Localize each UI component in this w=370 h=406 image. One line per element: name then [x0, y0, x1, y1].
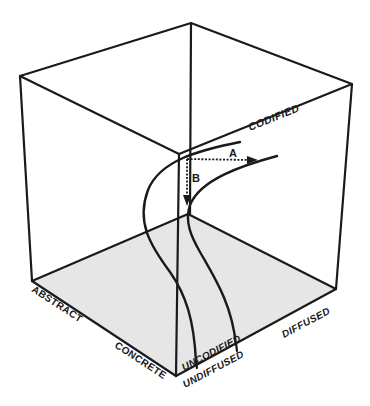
- arrow-a-label: A: [229, 147, 237, 159]
- edge-left-vertical: [20, 76, 32, 281]
- edge-top-face: [20, 23, 352, 154]
- label-codified: CODIFIED: [246, 101, 301, 132]
- cube-diagram-svg: A B CODIFIED ABSTRACT CONCRETE UNCODIFIE…: [0, 0, 370, 406]
- arrow-b-label: B: [192, 172, 200, 184]
- edge-back-vertical: [190, 23, 191, 214]
- arrow-a-line: [187, 159, 250, 160]
- edge-right-vertical: [336, 84, 352, 289]
- cube-diagram: A B CODIFIED ABSTRACT CONCRETE UNCODIFIE…: [0, 0, 370, 406]
